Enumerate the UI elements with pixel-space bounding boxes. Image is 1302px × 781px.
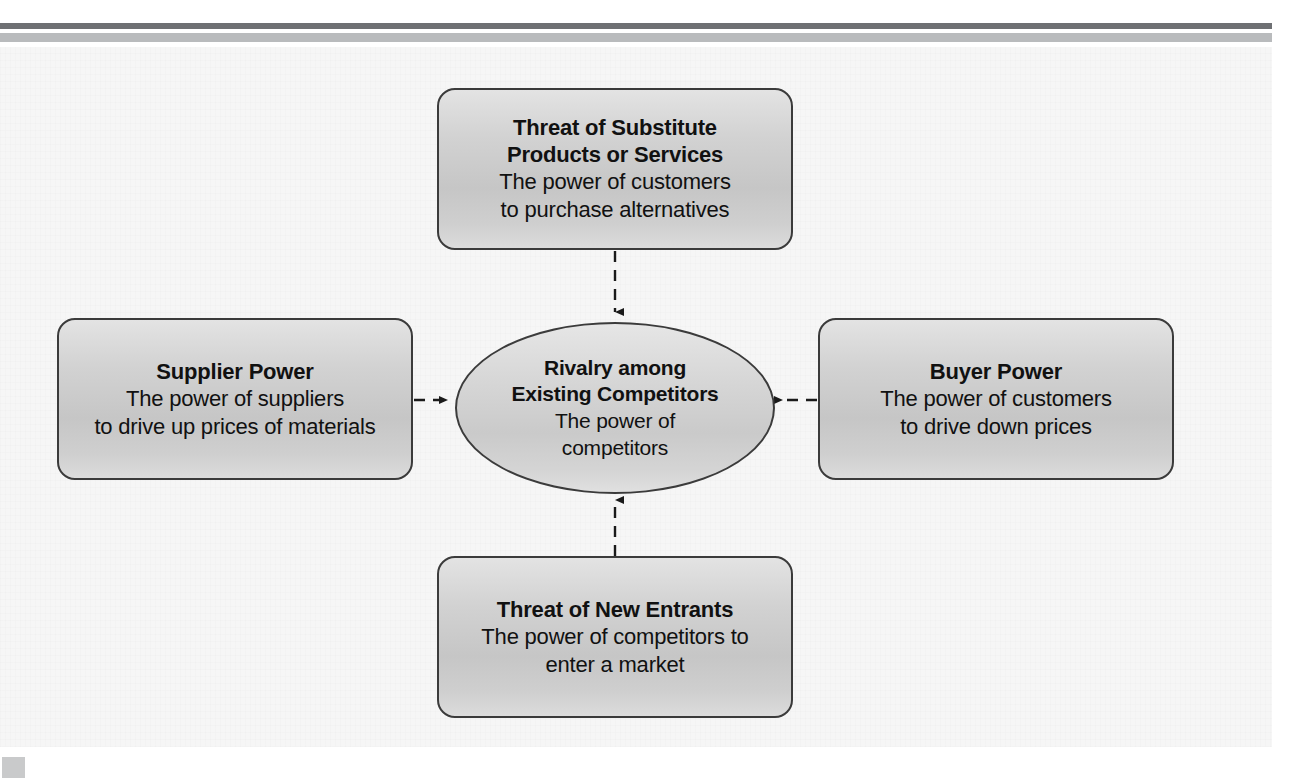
node-desc-line: competitors [562, 434, 668, 461]
node-desc-line: enter a market [545, 651, 684, 679]
node-title-line: Buyer Power [930, 358, 1062, 385]
node-desc-line: to drive down prices [900, 413, 1092, 441]
node-title-line: Products or Services [507, 141, 723, 168]
node-title-line: Rivalry among [544, 355, 686, 381]
node-desc-line: to purchase alternatives [501, 196, 730, 224]
node-title-line: Supplier Power [156, 358, 313, 385]
node-desc-line: The power of [555, 407, 675, 434]
force-node-rivalry-among-existing-competitors[interactable]: Rivalry among Existing Competitors The p… [455, 322, 775, 494]
force-node-buyer-power[interactable]: Buyer Power The power of customers to dr… [818, 318, 1174, 480]
node-desc-line: The power of customers [499, 168, 731, 196]
force-node-supplier-power[interactable]: Supplier Power The power of suppliers to… [57, 318, 413, 480]
node-desc-line: The power of suppliers [126, 385, 344, 413]
node-title-line: Threat of Substitute [513, 114, 717, 141]
node-desc-line: to drive up prices of materials [94, 413, 375, 441]
node-title-line: Existing Competitors [511, 381, 718, 407]
force-node-threat-of-substitutes[interactable]: Threat of Substitute Products or Service… [437, 88, 793, 250]
node-desc-line: The power of customers [880, 385, 1112, 413]
node-title-line: Threat of New Entrants [497, 596, 733, 623]
node-desc-line: The power of competitors to [481, 623, 748, 651]
force-node-threat-of-new-entrants[interactable]: Threat of New Entrants The power of comp… [437, 556, 793, 718]
